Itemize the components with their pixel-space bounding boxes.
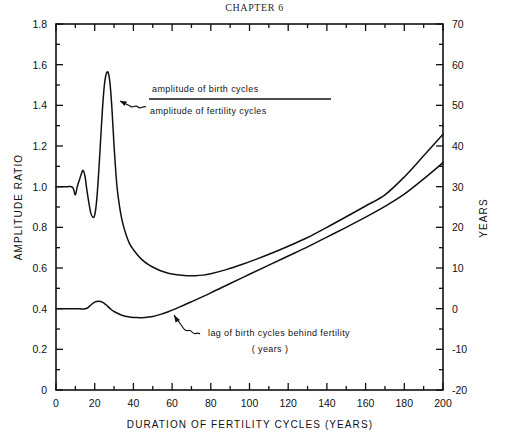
x-tick-label: 100 (241, 397, 259, 409)
x-tick-label: 200 (434, 397, 452, 409)
leader-squiggle-amplitude (130, 106, 146, 108)
y2-tick-label: 40 (452, 140, 464, 152)
y2-tick-label: 60 (452, 59, 464, 71)
y2-tick-label: 20 (452, 221, 464, 233)
y2-tick-label: 30 (452, 181, 464, 193)
annotation-amplitude-fraction: amplitude of birth cycles amplitude of f… (149, 84, 331, 116)
y2-tick-label: 70 (452, 18, 464, 30)
curve-amplitude-ratio (56, 72, 443, 276)
chart-canvas: 02040608010012014016018020000.20.40.60.8… (0, 0, 509, 434)
x-tick-label: 180 (396, 397, 414, 409)
y-tick-label: 0.2 (32, 343, 47, 355)
x-tick-label: 40 (128, 397, 140, 409)
leader-squiggle-lag (184, 329, 200, 334)
annotation-lag-line2: ( years ) (252, 344, 289, 354)
annotation-lag: lag of birth cycles behind fertility ( y… (208, 328, 350, 354)
y2-tick-label: 50 (452, 99, 464, 111)
curve-lag-years (56, 163, 443, 318)
y-tick-label: 1.4 (32, 99, 47, 111)
annotation-leaders (120, 101, 200, 334)
figure-root: CHAPTER 6 02040608010012014016018020000.… (0, 0, 509, 434)
x-tick-label: 80 (205, 397, 217, 409)
x-tick-label: 120 (279, 397, 297, 409)
y-tick-label: 0.6 (32, 262, 47, 274)
x-tick-label: 160 (357, 397, 375, 409)
x-tick-label: 140 (318, 397, 336, 409)
y2-tick-label: 0 (452, 303, 458, 315)
y-axis-title: AMPLITUDE RATIO (13, 154, 24, 260)
y2-axis-title: YEARS (478, 198, 489, 237)
y-tick-label: 1.0 (32, 181, 47, 193)
x-axis-title: DURATION OF FERTILITY CYCLES (YEARS) (127, 419, 373, 430)
x-tick-label: 20 (89, 397, 101, 409)
x-tick-label: 60 (166, 397, 178, 409)
y2-tick-label: -20 (452, 384, 467, 396)
y-tick-label: 1.2 (32, 140, 47, 152)
annotation-denominator: amplitude of fertility cycles (150, 106, 267, 116)
y-tick-label: 0.8 (32, 221, 47, 233)
x-tick-label: 0 (53, 397, 59, 409)
y-tick-label: 1.8 (32, 18, 47, 30)
annotation-lag-line1: lag of birth cycles behind fertility (208, 328, 350, 338)
chapter-heading: CHAPTER 6 (0, 2, 509, 13)
annotation-numerator: amplitude of birth cycles (152, 84, 259, 94)
axis-tick-labels: 02040608010012014016018020000.20.40.60.8… (32, 18, 467, 409)
y2-tick-label: 10 (452, 262, 464, 274)
y-tick-label: 1.6 (32, 59, 47, 71)
y-tick-label: 0 (41, 384, 47, 396)
y2-tick-label: -10 (452, 343, 467, 355)
y-tick-label: 0.4 (32, 303, 47, 315)
